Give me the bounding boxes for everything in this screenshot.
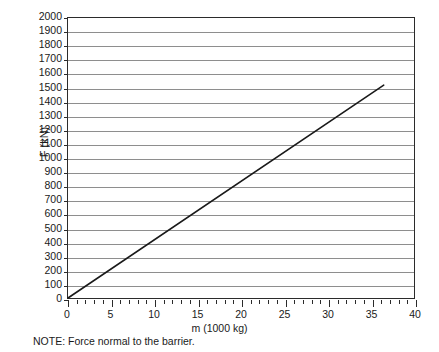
y-tick-label: 0 — [28, 293, 62, 303]
x-tick-minor — [225, 300, 226, 304]
y-tick-label: 2000 — [28, 11, 62, 21]
x-tick-major — [286, 300, 287, 307]
x-tick-minor — [172, 300, 173, 304]
x-tick-label: 10 — [148, 308, 160, 320]
series-line — [68, 85, 384, 298]
y-tick-label: 200 — [28, 265, 62, 275]
x-tick-minor — [390, 300, 391, 304]
x-tick-minor — [233, 300, 234, 304]
x-tick-minor — [312, 300, 313, 304]
y-tick-label: 900 — [28, 166, 62, 176]
y-tick-label: 1000 — [28, 152, 62, 162]
x-tick-label: 25 — [279, 308, 291, 320]
x-tick-label: 5 — [108, 308, 114, 320]
x-tick-minor — [338, 300, 339, 304]
x-tick-minor — [85, 300, 86, 304]
x-tick-minor — [94, 300, 95, 304]
x-tick-label: 15 — [192, 308, 204, 320]
x-tick-major — [373, 300, 374, 307]
x-tick-minor — [407, 300, 408, 304]
x-tick-minor — [207, 300, 208, 304]
x-tick-minor — [146, 300, 147, 304]
x-tick-minor — [364, 300, 365, 304]
x-tick-minor — [181, 300, 182, 304]
y-tick-label: 1400 — [28, 96, 62, 106]
x-tick-minor — [381, 300, 382, 304]
x-tick-label: 0 — [64, 308, 70, 320]
y-tick-label: 500 — [28, 223, 62, 233]
x-tick-minor — [77, 300, 78, 304]
x-tick-minor — [251, 300, 252, 304]
x-tick-minor — [303, 300, 304, 304]
x-tick-minor — [190, 300, 191, 304]
x-tick-label: 35 — [366, 308, 378, 320]
y-tick-label: 1700 — [28, 53, 62, 63]
x-tick-major — [68, 300, 69, 307]
x-tick-major — [199, 300, 200, 307]
data-series-layer — [68, 18, 414, 298]
plot-area — [67, 17, 415, 299]
x-axis-title: m (1000 kg) — [0, 322, 439, 334]
x-tick-major — [112, 300, 113, 307]
y-tick-label: 1200 — [28, 124, 62, 134]
x-tick-minor — [320, 300, 321, 304]
x-tick-minor — [164, 300, 165, 304]
x-tick-minor — [259, 300, 260, 304]
x-tick-label: 30 — [322, 308, 334, 320]
x-tick-minor — [138, 300, 139, 304]
y-tick-label: 1300 — [28, 110, 62, 120]
y-tick-label: 1100 — [28, 138, 62, 148]
chart-figure: F (kN) 010020030040050060070080090010001… — [0, 0, 439, 352]
x-tick-minor — [120, 300, 121, 304]
x-tick-minor — [277, 300, 278, 304]
y-tick-label: 1900 — [28, 25, 62, 35]
x-tick-minor — [399, 300, 400, 304]
x-tick-label: 40 — [409, 308, 421, 320]
x-tick-minor — [355, 300, 356, 304]
y-tick-label: 100 — [28, 279, 62, 289]
x-tick-minor — [216, 300, 217, 304]
x-tick-major — [329, 300, 330, 307]
y-tick-label: 400 — [28, 237, 62, 247]
chart-note: NOTE: Force normal to the barrier. — [33, 335, 195, 347]
x-tick-major — [416, 300, 417, 307]
y-tick-label: 600 — [28, 208, 62, 218]
x-tick-major — [242, 300, 243, 307]
x-tick-label: 20 — [235, 308, 247, 320]
x-tick-minor — [103, 300, 104, 304]
x-tick-major — [155, 300, 156, 307]
y-tick-label: 300 — [28, 251, 62, 261]
x-tick-minor — [268, 300, 269, 304]
x-tick-minor — [294, 300, 295, 304]
x-tick-minor — [346, 300, 347, 304]
y-tick-label: 1800 — [28, 39, 62, 49]
y-tick-label: 700 — [28, 194, 62, 204]
y-tick-label: 1500 — [28, 82, 62, 92]
x-tick-minor — [129, 300, 130, 304]
y-tick-label: 800 — [28, 180, 62, 190]
y-tick-label: 1600 — [28, 67, 62, 77]
